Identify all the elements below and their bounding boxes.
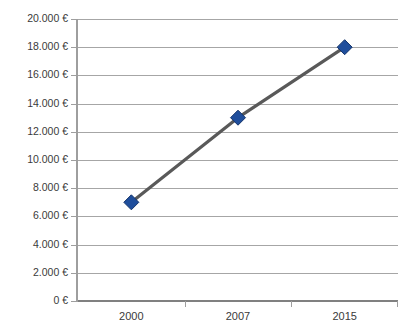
gridline [78, 245, 398, 246]
y-axis-label: 14.000 € [0, 97, 68, 109]
y-axis-tick [71, 245, 77, 246]
x-axis-tick [397, 301, 398, 307]
x-axis-tick [185, 301, 186, 307]
line-chart: 0 €2.000 €4.000 €6.000 €8.000 €10.000 €1… [0, 0, 413, 336]
y-axis-label: 4.000 € [0, 238, 68, 250]
y-axis-tick [71, 188, 77, 189]
y-axis-tick [71, 301, 77, 302]
y-axis-tick [71, 160, 77, 161]
y-axis-label: 16.000 € [0, 68, 68, 80]
y-axis-tick [71, 273, 77, 274]
x-axis-label: 2000 [101, 310, 161, 322]
gridline [78, 132, 398, 133]
y-axis-label: 8.000 € [0, 181, 68, 193]
y-axis-tick [71, 216, 77, 217]
gridline [78, 104, 398, 105]
x-axis-label: 2015 [315, 310, 375, 322]
y-axis-tick [71, 19, 77, 20]
gridline [78, 75, 398, 76]
plot-area [78, 19, 398, 301]
y-axis-tick [71, 132, 77, 133]
y-axis-label: 6.000 € [0, 209, 68, 221]
y-axis-label: 10.000 € [0, 153, 68, 165]
y-axis-tick [71, 47, 77, 48]
y-axis-label: 2.000 € [0, 266, 68, 278]
y-axis-label: 0 € [0, 294, 68, 306]
x-axis-tick [291, 301, 292, 307]
gridline [78, 216, 398, 217]
gridline [78, 19, 398, 20]
y-axis-tick [71, 75, 77, 76]
x-axis-label: 2007 [208, 310, 268, 322]
gridline [78, 273, 398, 274]
y-axis-label: 18.000 € [0, 40, 68, 52]
gridline [78, 160, 398, 161]
gridline [78, 47, 398, 48]
x-axis-line [78, 300, 398, 302]
y-axis-tick [71, 104, 77, 105]
y-axis-label: 12.000 € [0, 125, 68, 137]
y-axis-label: 20.000 € [0, 12, 68, 24]
gridline [78, 188, 398, 189]
chart-title [0, 0, 413, 1]
